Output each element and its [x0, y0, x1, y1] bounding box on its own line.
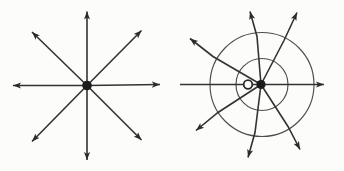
diagram-page	[0, 0, 344, 171]
center-charge-dot	[256, 80, 265, 89]
center-charge-dot	[82, 81, 92, 91]
hollow-charge-circle	[244, 80, 253, 89]
field-line-arrow-e	[87, 85, 160, 86]
field-lines-diagram	[0, 0, 344, 171]
